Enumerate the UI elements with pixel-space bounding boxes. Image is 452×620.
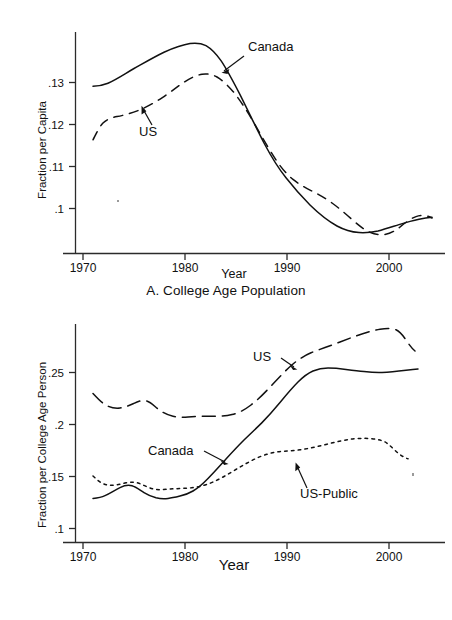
panel-a-arrow-canada-line <box>224 56 244 71</box>
panel-b-ytick-label-1: .2 <box>54 419 64 431</box>
panel-b-xtick-label-1: 1980 <box>172 550 199 564</box>
panel-b-arrow-us-public-line <box>297 466 307 488</box>
panel-b-xtick-label-0: 1970 <box>70 550 97 564</box>
panel-b-xtick-label-2: 1990 <box>274 550 301 564</box>
panel-b-fte-4year-enrolment: Fraction per College Age Person .25 .2 .… <box>0 310 452 620</box>
panel-a-xtick-label-3: 2000 <box>376 261 403 275</box>
panel-a-y-axis-title: Fraction per Capita <box>36 100 48 198</box>
panel-b-arrow-canada-line <box>204 451 225 462</box>
panel-a-ytick-label-0: .13 <box>48 77 64 89</box>
panel-b-ytick-label-2: .15 <box>48 471 64 483</box>
panel-a-plot: Fraction per Capita .13 .12 .11 .1 1970 … <box>0 0 452 310</box>
panel-b-xtick-label-3: 2000 <box>376 550 403 564</box>
panel-a-caption: A. College Age Population <box>0 283 452 298</box>
panel-b-arrow-us-line <box>281 358 294 367</box>
panel-b-ytick-label-0: .25 <box>48 367 64 379</box>
panel-b-series-label-us-public: US-Public <box>300 486 358 501</box>
panel-b-series-canada <box>93 368 418 499</box>
panel-a-series-label-canada: Canada <box>248 39 294 54</box>
panel-a-ytick-label-3: .1 <box>54 203 64 215</box>
scan-speck <box>117 200 119 202</box>
panel-a-college-age-population: Fraction per Capita .13 .12 .11 .1 1970 … <box>0 0 452 310</box>
panel-a-series-us <box>93 74 432 235</box>
panel-a-series-label-us: US <box>139 124 157 139</box>
panel-b-arrow-us-public-head <box>295 462 300 471</box>
panel-a-ytick-label-2: .11 <box>49 161 64 173</box>
panel-a-xtick-label-1: 1980 <box>172 261 199 275</box>
panel-b-series-label-canada: Canada <box>148 443 194 458</box>
panel-b-y-axis-title: Fraction per College Age Person <box>36 362 48 528</box>
panel-a-x-axis-title: Year <box>221 267 246 281</box>
panel-a-xtick-label-2: 1990 <box>274 261 301 275</box>
panel-b-series-us <box>93 328 415 417</box>
panel-b-series-label-us: US <box>253 349 271 364</box>
figure-two-panel-line-charts: Fraction per Capita .13 .12 .11 .1 1970 … <box>0 0 452 620</box>
scan-speck <box>412 473 414 476</box>
panel-b-x-axis-title: Year <box>219 556 249 573</box>
panel-a-ytick-label-1: .12 <box>48 119 64 131</box>
panel-b-plot: Fraction per College Age Person .25 .2 .… <box>0 310 452 620</box>
panel-b-series-us-public <box>93 438 408 489</box>
panel-b-ytick-label-3: .1 <box>54 523 64 535</box>
panel-b-arrow-us-head <box>290 365 298 370</box>
panel-a-xtick-label-0: 1970 <box>70 261 97 275</box>
